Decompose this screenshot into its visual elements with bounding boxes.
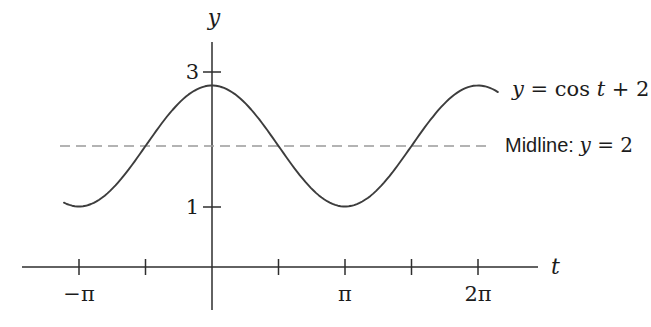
y-axis-label: y: [207, 5, 221, 30]
midline-label-y: y: [578, 133, 591, 157]
midline-label-prefix: Midline:: [505, 134, 579, 156]
y-tick-label: 1: [186, 195, 199, 219]
midline-label-eq2: = 2: [591, 133, 633, 157]
axes-layer: −ππ2π31: [22, 42, 538, 310]
curve-equation-label: y = cos t + 2: [511, 77, 649, 101]
x-tick-label: −π: [63, 282, 95, 306]
curve-layer: [60, 86, 498, 207]
curve-label-eq-cos: = cos: [524, 77, 597, 101]
midline-label: Midline: y = 2: [505, 133, 633, 157]
x-tick-label: 2π: [464, 282, 491, 306]
cosine-midline-figure: −ππ2π31 y t y = cos t + 2 Midline: y = 2: [0, 0, 651, 327]
curve-label-plus2: + 2: [605, 77, 649, 101]
y-tick-label: 3: [186, 60, 199, 84]
x-axis-label: t: [551, 254, 560, 279]
plot-canvas: −ππ2π31 y t y = cos t + 2 Midline: y = 2: [0, 0, 651, 327]
x-tick-label: π: [338, 282, 352, 306]
